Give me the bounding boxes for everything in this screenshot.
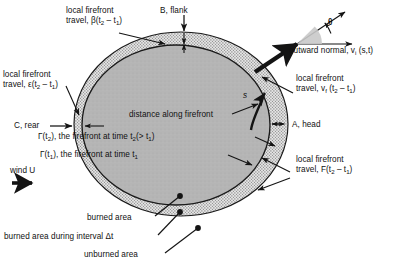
wind-label: wind U xyxy=(10,166,35,176)
firefront-gamma-t1-region xyxy=(82,45,270,205)
unburned-area-label: unburned area xyxy=(84,250,138,260)
vf-travel-line2: travel, vf (t2 – t1) xyxy=(296,84,356,93)
vf-travel-label: local firefront travel, vf (t2 – t1) xyxy=(296,74,356,94)
arc-s-label: s xyxy=(243,91,247,101)
unburned-area-callout xyxy=(165,225,201,253)
beta-travel-label: local firefront travel, β(t2 – t1) xyxy=(66,6,122,26)
epsilon-travel-line1: local firefront xyxy=(3,70,51,79)
gamma-t2-label: Γ(t2), the firefront at time t2(> t1) xyxy=(38,132,154,142)
epsilon-travel-line2: travel, ε(t2 – t1) xyxy=(3,80,58,89)
F-travel-label: local firefront travel, F(t2 – t1) xyxy=(296,155,352,175)
figure-canvas: local firefront travel, β(t2 – t1) B, fl… xyxy=(0,0,403,266)
burned-area-label: burned area xyxy=(87,213,132,223)
theta-label: θ xyxy=(328,18,332,28)
outward-normal-label: outward normal, vi (s,t) xyxy=(289,46,373,56)
burned-area-interval-label: burned area during interval Δt xyxy=(4,232,113,242)
beta-travel-line2: travel, β(t2 – t1) xyxy=(66,16,122,25)
F-travel-line2: travel, F(t2 – t1) xyxy=(296,165,352,174)
rear-label: C, rear xyxy=(14,121,39,131)
vf-travel-line1: local firefront xyxy=(296,74,344,83)
gamma-t1-label: Γ(t1), the firefront at time t1 xyxy=(40,150,138,160)
epsilon-travel-label: local firefront travel, ε(t2 – t1) xyxy=(3,70,58,90)
distance-along-firefront-label: distance along firefront xyxy=(129,110,213,120)
outward-normal-vector xyxy=(255,12,352,72)
head-label: A, head xyxy=(292,120,321,130)
flank-label: B, flank xyxy=(160,6,188,16)
beta-travel-line1: local firefront xyxy=(66,6,114,15)
F-travel-line1: local firefront xyxy=(296,155,344,164)
